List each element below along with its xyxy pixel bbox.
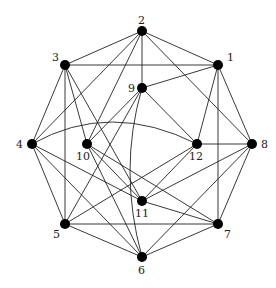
node-6 bbox=[137, 252, 147, 262]
node-label-2: 2 bbox=[138, 14, 145, 27]
node-7 bbox=[213, 219, 223, 229]
edge-2-1 bbox=[142, 31, 218, 65]
node-label-8: 8 bbox=[261, 138, 268, 151]
node-label-1: 1 bbox=[227, 51, 234, 64]
edge-7-6 bbox=[142, 224, 218, 257]
edge-1-12 bbox=[197, 65, 218, 144]
node-label-4: 4 bbox=[16, 138, 23, 151]
node-1 bbox=[213, 60, 223, 70]
node-label-3: 3 bbox=[52, 51, 59, 64]
edge-7-11 bbox=[142, 201, 218, 224]
edge-3-10 bbox=[65, 65, 87, 144]
node-2 bbox=[137, 26, 147, 36]
node-12 bbox=[192, 139, 202, 149]
node-5 bbox=[60, 219, 70, 229]
node-label-6: 6 bbox=[138, 264, 145, 277]
edge-2-4 bbox=[32, 31, 142, 144]
edge-8-7 bbox=[218, 144, 252, 224]
node-3 bbox=[60, 60, 70, 70]
edge-2-3 bbox=[65, 31, 142, 65]
curved-edge-9-6 bbox=[130, 88, 142, 257]
edge-3-4 bbox=[32, 65, 65, 144]
edge-9-12 bbox=[142, 88, 197, 144]
node-10 bbox=[82, 139, 92, 149]
node-label-5: 5 bbox=[53, 228, 60, 241]
node-11 bbox=[137, 196, 147, 206]
node-label-10: 10 bbox=[76, 150, 90, 163]
node-8 bbox=[247, 139, 257, 149]
node-4 bbox=[27, 139, 37, 149]
edge-2-8 bbox=[142, 31, 252, 144]
node-label-7: 7 bbox=[224, 228, 231, 241]
edge-1-8 bbox=[218, 65, 252, 144]
edge-1-9 bbox=[142, 65, 218, 88]
curved-edge-4-12 bbox=[32, 122, 197, 144]
node-label-12: 12 bbox=[189, 150, 203, 163]
node-label-9: 9 bbox=[128, 82, 135, 95]
node-9 bbox=[137, 83, 147, 93]
graph-diagram: 123456789101112 bbox=[0, 0, 276, 288]
edge-9-10 bbox=[87, 88, 142, 144]
edge-5-6 bbox=[65, 224, 142, 257]
node-label-11: 11 bbox=[135, 207, 149, 220]
edge-4-5 bbox=[32, 144, 65, 224]
